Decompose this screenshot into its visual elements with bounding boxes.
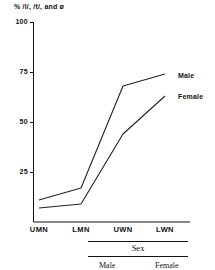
x-axis-caption: Sex: [88, 243, 188, 253]
y-tick-75: 75: [6, 68, 28, 75]
footer-label-female: Female: [155, 261, 179, 270]
caption-rule-bottom: [88, 256, 188, 257]
x-tick-lwn: LWN: [145, 225, 185, 234]
series-male-line: [39, 74, 165, 200]
axes: [30, 22, 190, 222]
y-tick-25: 25: [6, 168, 28, 175]
x-tick-uwn: UWN: [103, 225, 143, 234]
x-tick-umn: UMN: [19, 225, 59, 234]
series-female-line: [39, 96, 165, 208]
y-tick-50: 50: [6, 118, 28, 125]
footer-label-male: Male: [99, 261, 115, 270]
caption-rule-top: [88, 241, 188, 242]
x-tick-lmn: LMN: [61, 225, 101, 234]
y-tick-100: 100: [6, 18, 28, 25]
chart-figure: % /l/, /t/, and ø 100 75 50 25 UMN LMN U…: [0, 0, 215, 270]
series-label-male: Male: [178, 72, 194, 79]
series-label-female: Female: [178, 93, 203, 100]
